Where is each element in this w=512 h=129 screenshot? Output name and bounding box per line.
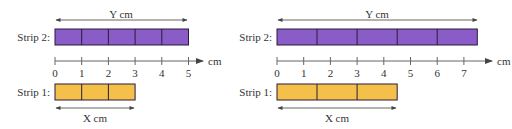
- tick-label: 2: [328, 67, 334, 79]
- tick-label: 1: [301, 67, 307, 79]
- tick-label: 6: [434, 67, 440, 79]
- x-dimension-label: X cm: [325, 112, 350, 124]
- tick-label: 5: [186, 67, 192, 79]
- strip2-label: Strip 2:: [239, 31, 272, 43]
- unit-label: cm: [497, 55, 511, 67]
- tick-label: 2: [106, 67, 112, 79]
- tick-label: 7: [461, 67, 467, 79]
- tick-label: 0: [52, 67, 58, 79]
- tick-label: 4: [381, 67, 387, 79]
- tick-label: 4: [159, 67, 165, 79]
- x-dimension-label: X cm: [83, 112, 108, 124]
- unit-label: cm: [208, 55, 222, 67]
- strip2-label: Strip 2:: [17, 31, 50, 43]
- tick-label: 5: [408, 67, 414, 79]
- ruler: 0 1 2 3 4 5 cm: [52, 55, 222, 79]
- tick-label: 3: [354, 67, 360, 79]
- right-panel: Y cm Strip 2: 0 1 2 3 4 5 6: [239, 8, 511, 124]
- strip-diagram: Y cm Strip 2: 0 1 2 3 4 5 cm Strip 1: [0, 0, 512, 129]
- ruler: 0 1 2 3 4 5 6 7 cm: [274, 55, 511, 79]
- ruler-arrow-icon: [196, 58, 204, 64]
- tick-label: 0: [274, 67, 280, 79]
- ruler-arrow-icon: [485, 58, 493, 64]
- y-dimension-label: Y cm: [365, 8, 389, 20]
- strip1-bar: [55, 84, 135, 100]
- strip2-bar: [55, 29, 189, 45]
- strip1-label: Strip 1:: [17, 86, 50, 98]
- strip1-label: Strip 1:: [239, 86, 272, 98]
- tick-label: 1: [79, 67, 85, 79]
- strip2-bar: [277, 29, 477, 45]
- strip1-bar: [277, 84, 397, 100]
- y-dimension-label: Y cm: [109, 8, 133, 20]
- left-panel: Y cm Strip 2: 0 1 2 3 4 5 cm Strip 1: [17, 8, 222, 124]
- tick-label: 3: [132, 67, 138, 79]
